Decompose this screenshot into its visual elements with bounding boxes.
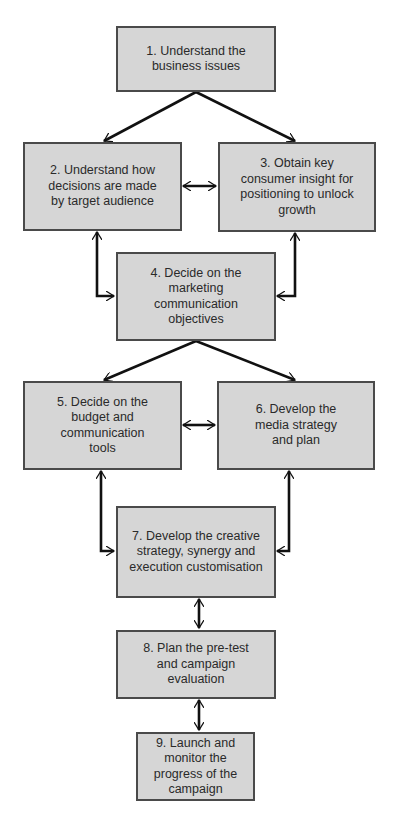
arrow-1-2	[104, 92, 196, 141]
arrow-2-4	[97, 232, 114, 296]
step-1-box: 1. Understand the business issues	[116, 26, 276, 92]
step-3-label: 3. Obtain key consumer insight for posit…	[237, 156, 357, 218]
arrow-4-5	[104, 341, 196, 380]
arrow-4-6	[196, 341, 295, 380]
step-5-box: 5. Decide on the budget and communicatio…	[23, 381, 182, 470]
arrow-1-3	[196, 92, 295, 141]
step-8-box: 8. Plan the pre-test and campaign evalua…	[116, 630, 276, 699]
step-6-box: 6. Develop the media strategy and plan	[217, 381, 375, 470]
step-7-label: 7. Develop the creative strategy, synerg…	[126, 529, 266, 576]
step-2-label: 2. Understand how decisions are made by …	[45, 163, 160, 210]
step-4-box: 4. Decide on the marketing communication…	[116, 252, 276, 341]
step-9-label: 9. Launch and monitor the progress of th…	[148, 736, 243, 798]
step-2-box: 2. Understand how decisions are made by …	[23, 142, 182, 231]
step-7-box: 7. Develop the creative strategy, synerg…	[116, 506, 276, 598]
step-4-label: 4. Decide on the marketing communication…	[146, 266, 246, 328]
step-3-box: 3. Obtain key consumer insight for posit…	[218, 142, 376, 232]
step-8-label: 8. Plan the pre-test and campaign evalua…	[139, 641, 254, 688]
step-5-label: 5. Decide on the budget and communicatio…	[53, 395, 153, 457]
step-6-label: 6. Develop the media strategy and plan	[249, 402, 344, 449]
arrow-3-4	[277, 233, 295, 296]
step-1-label: 1. Understand the business issues	[141, 44, 251, 75]
arrow-6-7	[277, 471, 289, 551]
arrow-5-7	[101, 471, 114, 551]
step-9-box: 9. Launch and monitor the progress of th…	[136, 732, 255, 801]
